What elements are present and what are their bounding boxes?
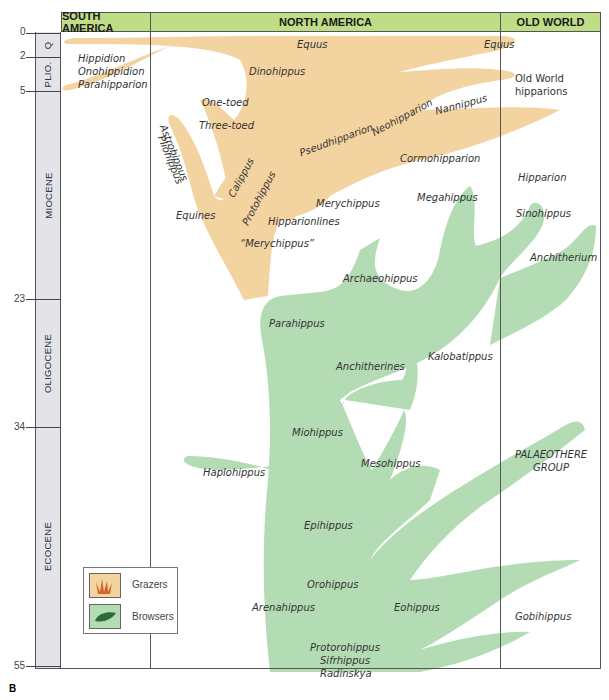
label-arenahippus: Arenahippus	[252, 602, 315, 613]
label-megahippus: Megahippus	[417, 192, 478, 203]
label-gobihippus: Gobihippus	[515, 611, 571, 622]
divider-na-ow	[500, 32, 501, 668]
label-anchitherium: Anchitherium	[530, 252, 597, 263]
leaf-icon	[90, 605, 120, 628]
label-equus-ow: Equus	[484, 39, 515, 50]
label-equus-na: Equus	[297, 39, 328, 50]
label-one-toed: One-toed	[202, 97, 249, 108]
label-kalobatippus: Kalobatippus	[428, 351, 493, 362]
label-old-world-hipparions: Old World hipparions	[515, 72, 585, 98]
label-dinohippus: Dinohippus	[249, 66, 305, 77]
label-hipparion: Hipparion	[518, 172, 566, 183]
label-merychippus-quoted: “Merychippus”	[240, 238, 314, 249]
label-onohippidion: Onohippidion	[78, 66, 145, 77]
label-protorohippus: Protorohippus	[310, 642, 380, 653]
legend: Grazers Browsers	[83, 567, 178, 634]
label-haplohippus: Haplohippus	[203, 467, 265, 478]
label-hippidion: Hippidion	[78, 53, 125, 64]
label-cormohipparion: Cormohipparion	[400, 153, 480, 164]
label-sinohippus: Sinohippus	[516, 208, 571, 219]
label-radinskya: Radinskya	[320, 668, 372, 679]
label-parahipparion: Parahipparion	[78, 79, 148, 90]
figure-label: B	[9, 683, 16, 694]
grass-icon	[90, 574, 120, 597]
label-eohippus: Eohippus	[394, 602, 440, 613]
divider-right	[600, 32, 601, 668]
label-three-toed: Three-toed	[199, 120, 254, 131]
legend-swatch-browsers	[89, 604, 121, 629]
legend-label-grazers: Grazers	[132, 579, 168, 590]
bottom-axis	[35, 668, 601, 669]
legend-label-browsers: Browsers	[132, 611, 174, 622]
label-mesohippus: Mesohippus	[361, 458, 420, 469]
label-hipparionlines: Hipparionlines	[268, 216, 340, 227]
label-equines: Equines	[176, 210, 215, 221]
label-palaeothere-group: PALAEOTHERE GROUP	[515, 448, 587, 474]
label-orohippus: Orohippus	[307, 579, 358, 590]
label-epihippus: Epihippus	[304, 520, 353, 531]
label-parahippus: Parahippus	[269, 318, 325, 329]
label-merychippus: Merychippus	[316, 198, 380, 209]
label-archaeohippus: Archaeohippus	[343, 273, 418, 284]
label-anchitherines: Anchitherines	[336, 361, 405, 372]
legend-swatch-grazers	[89, 573, 121, 598]
label-miohippus: Miohippus	[292, 427, 343, 438]
label-sifrhippus: Sifrhippus	[320, 655, 370, 666]
